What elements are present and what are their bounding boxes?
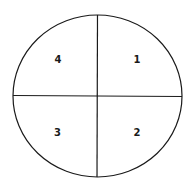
quadrant-label-bottom-left: 3 <box>54 127 61 138</box>
quadrant-label-bottom-right: 2 <box>134 127 141 138</box>
horizontal-divider <box>13 96 182 97</box>
quadrant-label-top-left: 4 <box>55 54 62 65</box>
quadrant-label-top-right: 1 <box>134 54 141 65</box>
quadrant-circle-diagram: 1 2 3 4 <box>0 0 191 192</box>
